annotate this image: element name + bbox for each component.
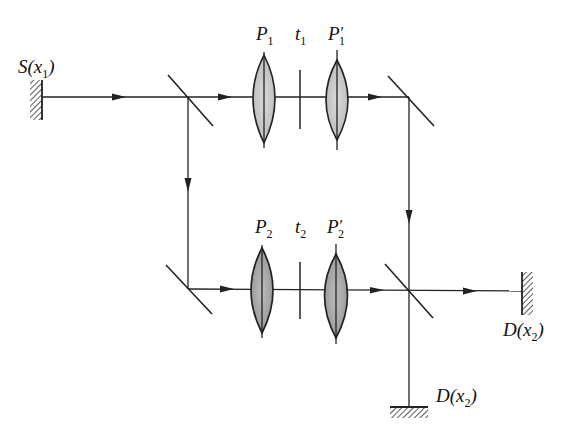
detector-bottom: [390, 407, 428, 418]
mirror-top-right: [388, 76, 434, 126]
arrow-right-icon: [370, 287, 384, 294]
detector-bottom-label: D(x2): [435, 385, 477, 410]
lens-p1-prime: [326, 50, 348, 150]
lens-p2-prime: [325, 244, 348, 344]
label-t1: t1: [295, 23, 306, 48]
label-t2: t2: [295, 216, 306, 241]
arrow-down-icon: [406, 210, 413, 224]
arrow-right-icon: [112, 94, 126, 101]
detector-right: [522, 272, 533, 315]
beam-paths: [42, 97, 522, 407]
arrow-right-icon: [368, 94, 382, 101]
source-plate: [30, 80, 42, 120]
arrow-right-icon: [463, 288, 477, 295]
label-p1: P1: [255, 23, 274, 48]
source-label: S(x1): [18, 56, 55, 81]
interferometer-diagram: S(x1) P1 t1: [0, 0, 570, 441]
arrow-right-icon: [218, 94, 232, 101]
detector-right-label: D(x2): [502, 319, 544, 344]
lens-p1: [253, 52, 275, 148]
label-p1-prime: P′1: [327, 23, 345, 48]
label-p2-prime: P′2: [326, 216, 344, 241]
arrow-right-icon: [220, 286, 234, 293]
beamsplitter-top-left: [168, 75, 213, 126]
label-p2: P2: [254, 216, 273, 241]
arrow-down-icon: [185, 178, 192, 192]
lens-p2: [251, 245, 273, 338]
arrowheads: [112, 94, 477, 295]
